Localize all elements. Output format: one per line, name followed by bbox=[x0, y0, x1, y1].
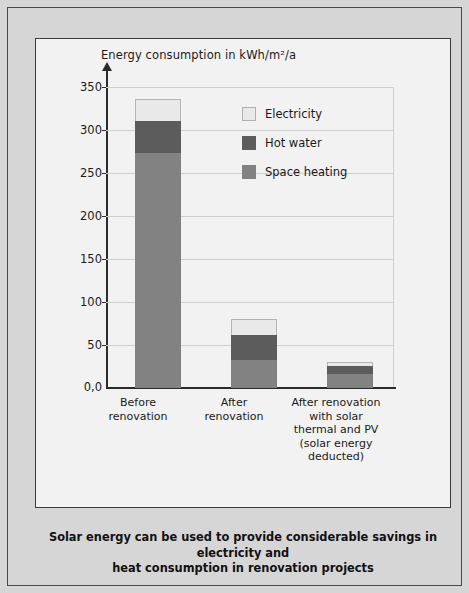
page-border: Energy consumption in kWh/m²/a 350 300 bbox=[7, 7, 462, 586]
cat-line: After renovation bbox=[280, 396, 392, 410]
y-axis-arrow-icon bbox=[102, 62, 112, 71]
x-category-label-1: Before renovation bbox=[92, 396, 184, 423]
y-tick-label: 50 bbox=[87, 338, 102, 352]
legend-item-hot-water[interactable]: Hot water bbox=[242, 136, 347, 150]
cat-line: renovation bbox=[92, 410, 184, 424]
cat-line: with solar bbox=[280, 410, 392, 424]
legend-label: Hot water bbox=[265, 136, 322, 150]
legend-label: Electricity bbox=[265, 107, 322, 121]
caption-line: Solar energy can be used to provide cons… bbox=[35, 530, 451, 561]
x-category-label-2: After renovation bbox=[188, 396, 280, 423]
bar-segment-space-heating bbox=[135, 153, 181, 388]
cat-line: renovation bbox=[188, 410, 280, 424]
chart-legend: Electricity Hot water Space heating bbox=[242, 107, 347, 194]
x-category-label-3: After renovation with solar thermal and … bbox=[280, 396, 392, 464]
bar-segment-electricity bbox=[231, 319, 277, 335]
bar-segment-hot-water bbox=[327, 366, 373, 375]
cat-line: deducted) bbox=[280, 450, 392, 464]
y-tick-label: 100 bbox=[80, 295, 102, 309]
legend-swatch-electricity bbox=[242, 107, 256, 121]
gridline-350: 350 bbox=[106, 87, 394, 88]
y-tick-label: 150 bbox=[80, 252, 102, 266]
bar-after-renovation[interactable] bbox=[231, 319, 277, 388]
y-axis-line bbox=[106, 69, 108, 388]
legend-label: Space heating bbox=[265, 165, 347, 179]
figure-caption: Solar energy can be used to provide cons… bbox=[35, 530, 451, 577]
bar-segment-hot-water bbox=[135, 121, 181, 153]
legend-swatch-hot-water bbox=[242, 136, 256, 150]
page: Energy consumption in kWh/m²/a 350 300 bbox=[0, 0, 469, 593]
cat-line: thermal and PV bbox=[280, 423, 392, 437]
cat-line: After bbox=[188, 396, 280, 410]
y-axis-title: Energy consumption in kWh/m²/a bbox=[101, 48, 296, 62]
cat-line: Before bbox=[92, 396, 184, 410]
cat-line: (solar energy bbox=[280, 437, 392, 451]
bar-before-renovation[interactable] bbox=[135, 99, 181, 388]
y-tick-label: 0,0 bbox=[84, 380, 102, 394]
bar-after-renovation-solar[interactable] bbox=[327, 362, 373, 388]
y-tick-label: 350 bbox=[80, 80, 102, 94]
bar-segment-electricity bbox=[135, 99, 181, 121]
bar-segment-space-heating bbox=[231, 360, 277, 388]
legend-swatch-space-heating bbox=[242, 165, 256, 179]
bar-segment-hot-water bbox=[231, 335, 277, 360]
legend-item-electricity[interactable]: Electricity bbox=[242, 107, 347, 121]
figure-box: Energy consumption in kWh/m²/a 350 300 bbox=[35, 38, 451, 508]
bar-segment-space-heating bbox=[327, 374, 373, 388]
caption-line: heat consumption in renovation projects bbox=[35, 561, 451, 577]
y-tick-label: 300 bbox=[80, 123, 102, 137]
y-tick-label: 250 bbox=[80, 166, 102, 180]
y-tick-label: 200 bbox=[80, 209, 102, 223]
legend-item-space-heating[interactable]: Space heating bbox=[242, 165, 347, 179]
